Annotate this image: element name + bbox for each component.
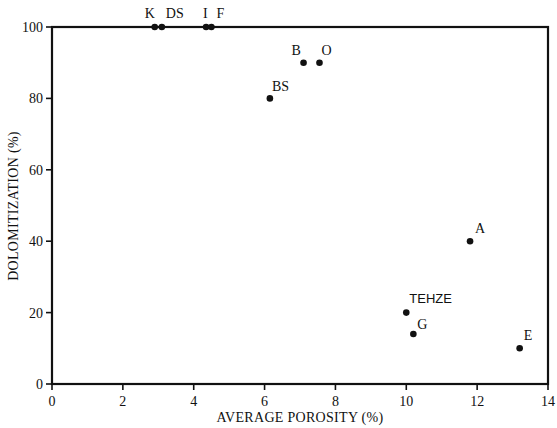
x-axis-title: AVERAGE POROSITY (%)	[217, 410, 384, 426]
point-label: B	[292, 43, 301, 58]
data-point	[410, 331, 417, 338]
data-point	[208, 24, 215, 31]
data-point	[467, 238, 474, 245]
point-label: G	[417, 317, 427, 332]
y-tick-label: 20	[29, 306, 43, 321]
x-tick-label: 4	[190, 394, 197, 409]
data-point	[403, 309, 410, 316]
data-point	[267, 95, 274, 102]
x-tick-label: 10	[399, 394, 413, 409]
scatter-chart: 020406080100 02468101214 KDSIFBOBSATEHZE…	[0, 0, 557, 428]
point-label: A	[475, 221, 486, 236]
point-label: TEHZE	[409, 291, 452, 306]
point-label: O	[321, 43, 331, 58]
point-label: I	[203, 6, 208, 21]
x-tick-label: 12	[470, 394, 484, 409]
y-tick-label: 60	[29, 163, 43, 178]
point-label: DS	[166, 6, 184, 21]
y-axis-title: DOLOMITIZATION (%)	[6, 131, 22, 281]
data-point	[300, 59, 307, 66]
x-tick-label: 0	[49, 394, 56, 409]
y-axis-ticks: 020406080100	[22, 20, 52, 392]
data-point	[516, 345, 523, 352]
data-points: KDSIFBOBSATEHZEGE	[145, 6, 532, 352]
point-label: F	[216, 6, 224, 21]
point-label: E	[524, 328, 533, 343]
x-tick-label: 2	[119, 394, 126, 409]
y-tick-label: 100	[22, 20, 43, 35]
data-point	[316, 59, 323, 66]
x-tick-label: 14	[541, 394, 555, 409]
x-axis-ticks: 02468101214	[49, 384, 556, 409]
data-point	[151, 24, 158, 31]
y-tick-label: 80	[29, 91, 43, 106]
y-tick-label: 0	[36, 377, 43, 392]
x-tick-label: 8	[332, 394, 339, 409]
point-label: K	[145, 6, 155, 21]
plot-frame	[52, 27, 548, 384]
y-tick-label: 40	[29, 234, 43, 249]
data-point	[159, 24, 166, 31]
x-tick-label: 6	[261, 394, 268, 409]
point-label: BS	[272, 79, 289, 94]
